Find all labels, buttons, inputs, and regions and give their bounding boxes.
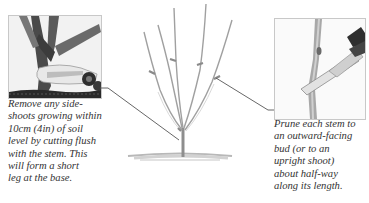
pruned-bush-sketch (0, 0, 369, 203)
soil-line (128, 154, 232, 161)
leader-lines (100, 78, 274, 140)
bush-stems (144, 4, 232, 130)
right-leader-line (216, 78, 274, 110)
left-leader-line (100, 88, 179, 140)
